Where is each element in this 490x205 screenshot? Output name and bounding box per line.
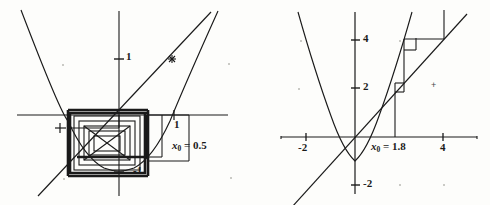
panel-right-cobweb: -2 4 4 2 -2 x0 = 1.8 +	[245, 0, 490, 205]
right-label-y-two: 2	[363, 81, 369, 92]
left-label-minus-one: -1	[133, 165, 142, 176]
right-caption-sub: 0	[377, 145, 381, 154]
right-cobweb-staircase	[395, 10, 444, 137]
scan-speck	[228, 63, 230, 65]
panel-left-cobweb: 1 1 -1 x0 = 0.5	[0, 0, 245, 205]
scan-speck	[300, 40, 302, 42]
scan-speck	[443, 184, 445, 186]
left-label-y-one: 1	[126, 51, 132, 62]
left-caption-var: x	[172, 139, 178, 151]
left-identity-line	[38, 12, 211, 196]
left-caption-eq: = 0.5	[181, 139, 207, 151]
left-cobweb-nested	[74, 116, 140, 170]
scan-speck	[62, 64, 64, 66]
figure-container: 1 1 -1 x0 = 0.5	[0, 0, 490, 205]
left-plot-svg	[0, 0, 245, 205]
scan-speck	[230, 177, 232, 179]
right-label-y-four: 4	[363, 33, 369, 44]
right-caption-eq: = 1.8	[380, 140, 406, 152]
right-caption-var: x	[371, 140, 377, 152]
scan-speck	[399, 184, 401, 186]
right-label-x-minus2: -2	[298, 142, 307, 153]
right-label-x-four: 4	[440, 142, 446, 153]
right-identity-line	[292, 14, 467, 205]
left-caption-sub: 0	[178, 144, 182, 153]
right-caption-x0: x0 = 1.8	[371, 141, 406, 152]
right-plot-svg	[245, 0, 490, 205]
scan-speck	[63, 178, 65, 180]
left-caption-x0: x0 = 0.5	[172, 140, 207, 151]
left-label-x-one: 1	[174, 119, 180, 130]
registration-plus-icon: +	[431, 80, 436, 90]
left-star-marker	[168, 55, 176, 63]
scan-speck	[298, 88, 300, 90]
scan-speck	[399, 40, 401, 42]
right-label-y-minus2: -2	[363, 178, 372, 189]
